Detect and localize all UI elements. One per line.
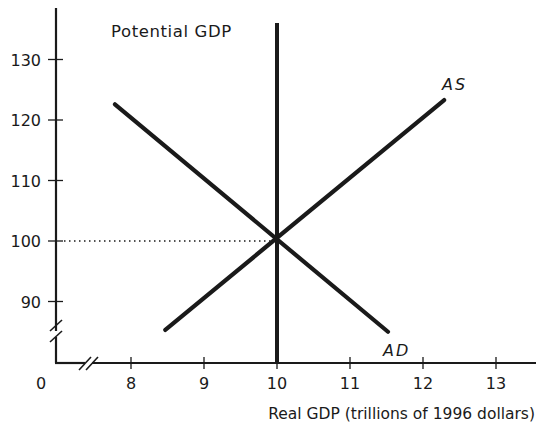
ad-as-chart: Potential GDP AS AD Real GDP (trillions … [0, 0, 545, 441]
y-tick-label: 130 [10, 51, 41, 70]
y-tick-label: 90 [21, 293, 41, 312]
x-tick-label: 12 [413, 374, 433, 393]
ad-curve [115, 104, 388, 331]
y-tick-label: 100 [10, 232, 41, 251]
x-tick-label: 9 [199, 374, 209, 393]
x-tick-label: 8 [126, 374, 136, 393]
ad-curve-label: AD [382, 341, 410, 360]
as-curve [165, 100, 444, 330]
x-tick-label: 11 [340, 374, 360, 393]
potential-gdp-label: Potential GDP [111, 22, 232, 41]
as-curve-label: AS [441, 75, 467, 94]
x-axis-title: Real GDP (trillions of 1996 dollars) [268, 405, 535, 423]
y-tick-label: 120 [10, 111, 41, 130]
x-tick-label: 10 [267, 374, 287, 393]
axes [50, 8, 536, 370]
origin-label: 0 [36, 374, 46, 393]
x-tick-label: 13 [486, 374, 506, 393]
y-tick-label: 110 [10, 172, 41, 191]
curves [115, 23, 444, 363]
